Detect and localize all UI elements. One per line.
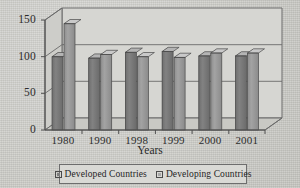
legend-label-developed: Developed Countries bbox=[65, 169, 147, 179]
y-axis-line bbox=[41, 20, 45, 130]
legend-item-developing: Developing Countries bbox=[156, 169, 252, 179]
x-tick-label-2001: 2001 bbox=[229, 134, 265, 146]
chart-canvas bbox=[0, 0, 300, 188]
x-axis-title: Years bbox=[110, 144, 190, 156]
series-1-swatch-icon bbox=[55, 171, 62, 178]
bar-chart-3d: 150 100 50 0 1980 1990 1998 1999 2000 20… bbox=[0, 0, 300, 188]
series-2-swatch-icon bbox=[156, 171, 163, 178]
y-tick-label-50: 50 bbox=[10, 86, 36, 98]
y-tick-label-100: 100 bbox=[10, 50, 36, 62]
legend-item-developed: Developed Countries bbox=[55, 169, 147, 179]
y-tick-label-150: 150 bbox=[10, 13, 36, 25]
legend-label-developing: Developing Countries bbox=[166, 169, 252, 179]
y-tick-label-0: 0 bbox=[10, 123, 36, 135]
x-tick-label-1980: 1980 bbox=[45, 134, 81, 146]
chart-legend: Developed Countries Developing Countries bbox=[59, 164, 247, 184]
x-tick-label-2000: 2000 bbox=[192, 134, 228, 146]
